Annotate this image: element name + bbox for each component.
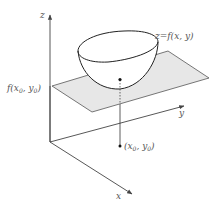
y-axis: [50, 106, 184, 142]
y-axis-label: y: [178, 108, 185, 118]
x-axis: [50, 142, 132, 194]
surface-label: z=f(x, y): [154, 31, 194, 41]
x-axis-label: x: [116, 191, 121, 201]
surface-minimum-point: [118, 78, 121, 81]
paraboloid-minimum-diagram: z y x z=f(x, y) f(x0, y0) (x0, y0): [0, 0, 220, 204]
plane-height-label: f(x0, y0): [6, 83, 41, 94]
z-axis-label: z: [39, 10, 45, 20]
base-point: [119, 145, 122, 148]
base-point-label: (x0, y0): [124, 141, 155, 152]
